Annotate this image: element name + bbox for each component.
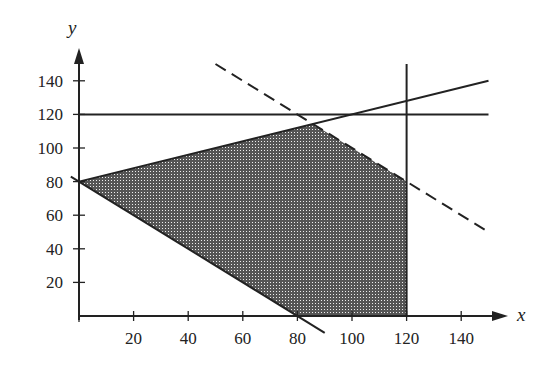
x-axis-label: x <box>516 304 526 325</box>
shaded-region <box>79 124 407 316</box>
x-tick-label: 20 <box>125 329 142 348</box>
x-tick-label: 120 <box>394 329 420 348</box>
y-tick-label: 140 <box>38 72 64 91</box>
y-tick-label: 60 <box>46 206 63 225</box>
y-tick-label: 120 <box>38 105 64 124</box>
y-tick-label: 80 <box>46 173 63 192</box>
y-tick-label: 20 <box>46 273 63 292</box>
x-tick-label: 140 <box>448 329 474 348</box>
x-tick-label: 60 <box>234 329 251 348</box>
x-tick-label: 40 <box>180 329 197 348</box>
y-axis-arrow-icon <box>74 48 84 64</box>
y-axis-label: y <box>66 17 77 38</box>
y-tick-label: 100 <box>38 139 64 158</box>
x-tick-label: 80 <box>289 329 306 348</box>
chart: 2040608010012014020406080100120140 y x <box>0 0 555 369</box>
plot-area: 2040608010012014020406080100120140 <box>38 48 509 348</box>
x-tick-label: 100 <box>339 329 365 348</box>
y-tick-label: 40 <box>46 240 63 259</box>
x-axis-arrow-icon <box>492 311 508 321</box>
